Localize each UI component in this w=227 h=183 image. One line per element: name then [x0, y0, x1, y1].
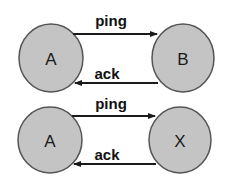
ping-ack-diagram: A B ping ack A X ping ack	[0, 0, 227, 183]
ping-label: ping	[95, 95, 127, 112]
node-a-label: A	[45, 50, 57, 69]
ack-label: ack	[94, 65, 120, 82]
node-x-label: X	[174, 132, 185, 151]
ping-label: ping	[95, 12, 127, 29]
node-b-label: B	[177, 50, 188, 69]
scenario-2: A X ping ack	[18, 95, 211, 173]
ack-label: ack	[94, 146, 120, 163]
scenario-1: A B ping ack	[19, 12, 214, 92]
node-a-label: A	[44, 132, 56, 151]
